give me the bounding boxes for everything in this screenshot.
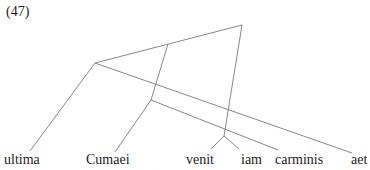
word-cumaei: Cumaei (86, 152, 130, 168)
tree-edge (151, 100, 278, 150)
tree-edge (115, 100, 151, 152)
word-carminis: carminis (275, 152, 323, 168)
tree-edge (95, 63, 352, 153)
dependency-tree (0, 0, 370, 170)
tree-edge (211, 136, 224, 149)
tree-edge (30, 63, 95, 151)
tree-edge (151, 44, 168, 100)
word-aet: aet (351, 152, 367, 168)
tree-edge (224, 136, 239, 149)
tree-edge (95, 25, 242, 63)
word-iam: iam (241, 152, 262, 168)
tree-edge (224, 25, 242, 136)
word-venit: venit (186, 152, 214, 168)
word-ultima: ultima (4, 152, 40, 168)
